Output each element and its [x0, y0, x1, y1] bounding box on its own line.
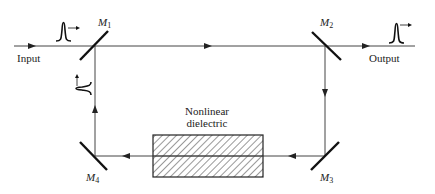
input-pulse-icon [56, 23, 80, 42]
top-beam [14, 43, 415, 49]
output-pulse-icon [389, 23, 412, 43]
left-arrow-icon [122, 153, 130, 159]
left-beam [92, 46, 98, 156]
up-arrow-icon [92, 105, 98, 113]
input-label: Input [17, 52, 40, 64]
output-label: Output [369, 52, 400, 64]
ring-resonator-diagram: Input Output Nonlinear dielectric M1 M2 … [0, 0, 435, 194]
input-arrow-icon [28, 43, 36, 49]
m2-label: M2 [319, 16, 333, 30]
beam-arrow-icon [204, 43, 212, 49]
output-arrow-icon [362, 43, 370, 49]
m1-label: M1 [97, 16, 111, 30]
medium-label-line2: dielectric [187, 117, 228, 129]
left-arrow-icon [288, 153, 296, 159]
m3-label: M3 [319, 171, 333, 185]
m4-label: M4 [85, 171, 99, 185]
feedback-pulse-icon [75, 74, 91, 95]
medium-label-line1: Nonlinear [185, 105, 229, 117]
nonlinear-dielectric [153, 135, 263, 177]
right-beam [322, 46, 328, 156]
down-arrow-icon [322, 89, 328, 97]
